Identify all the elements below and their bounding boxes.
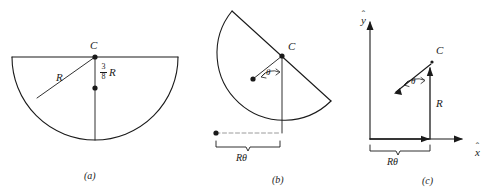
panel-b-label-arc-length: Rθ [236, 153, 247, 163]
panel-c-geometry [367, 21, 464, 155]
figure-root: C R 3 8 R (a) C θ Rθ (b) ˆ y ˆ x C θ R R… [0, 0, 492, 192]
panel-b-angle-arrow-right [276, 69, 280, 75]
panel-c-label-rtheta: Rθ [387, 157, 398, 167]
panel-c-point-c [430, 60, 433, 63]
fraction-numerator: 3 [101, 63, 107, 71]
panel-c-label-r: R [436, 98, 443, 109]
panel-c-y-axis-arrowhead [367, 21, 374, 30]
panel-b-dimension-bracket [216, 141, 280, 151]
panel-c-label-x-axis: ˆ x [475, 147, 480, 158]
panel-c-angle-arrow-right [421, 78, 425, 84]
panel-b-geometry [216, 11, 331, 151]
panel-b-centroid-point [250, 76, 255, 81]
panel-b-arc [217, 11, 331, 120]
panel-a-radius-line [37, 57, 95, 98]
figure-drawing [0, 0, 492, 192]
panel-c-dimension-bracket [370, 145, 430, 155]
panel-b-point-c [279, 53, 284, 58]
panel-b-caption: (b) [272, 174, 284, 185]
x-axis-hat-accent: ˆ [476, 142, 479, 152]
panel-c-label-y-axis: ˆ y [361, 15, 366, 26]
panel-a-centroid-point [92, 85, 97, 90]
fraction-variable: R [109, 66, 116, 78]
panel-a-caption: (a) [84, 170, 96, 181]
panel-a-label-radius: R [56, 72, 63, 83]
panel-c-rtheta-arrowhead [421, 136, 430, 142]
panel-a-geometry [12, 57, 178, 140]
fraction-denominator: 8 [101, 73, 107, 81]
panel-c-label-theta: θ [411, 77, 415, 86]
panel-a-label-c: C [90, 40, 97, 51]
panel-c-caption: (c) [422, 175, 433, 186]
y-axis-hat-accent: ˆ [362, 10, 365, 20]
panel-c-r-arrowhead [427, 67, 433, 76]
panel-a-point-c [92, 54, 97, 59]
panel-b-label-c: C [288, 41, 295, 52]
panel-b-contact-point [213, 130, 218, 135]
panel-c-label-c: C [436, 45, 443, 56]
panel-c-offset-arrowhead [394, 88, 402, 95]
panel-c-x-axis-arrowhead [454, 136, 463, 143]
panel-a-label-centroid-offset: 3 8 R [100, 63, 116, 81]
fraction-stack: 3 8 [100, 63, 107, 81]
panel-b-label-theta: θ [266, 68, 270, 77]
